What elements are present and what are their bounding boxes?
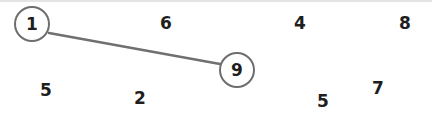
connection-line-1-9 xyxy=(49,33,220,64)
number-node-5b[interactable]: 5 xyxy=(305,83,341,116)
number-node-5a[interactable]: 5 xyxy=(28,72,64,108)
number-node-8[interactable]: 8 xyxy=(387,5,423,41)
number-node-9[interactable]: 9 xyxy=(219,52,255,88)
number-node-6[interactable]: 6 xyxy=(148,5,184,41)
number-node-1[interactable]: 1 xyxy=(14,6,50,42)
number-node-7[interactable]: 7 xyxy=(360,70,396,106)
number-node-4[interactable]: 4 xyxy=(282,5,318,41)
number-node-2[interactable]: 2 xyxy=(122,80,158,116)
